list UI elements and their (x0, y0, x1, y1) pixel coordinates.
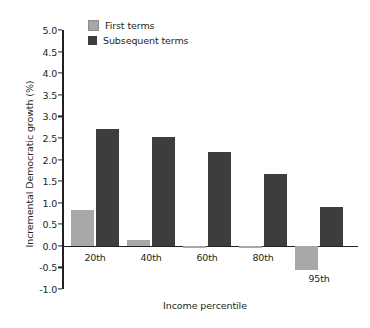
x-axis-tick-label: 80th (239, 252, 287, 263)
x-axis-tick-label: 95th (295, 273, 343, 284)
y-axis-tick-mark (58, 51, 62, 52)
bar-80th-subsequent-terms (264, 174, 287, 246)
bar-20th-first-terms (71, 210, 94, 245)
y-axis-tick-mark (58, 73, 62, 74)
bar-group: 40th (127, 30, 183, 289)
y-axis-tick-mark (58, 116, 62, 117)
bar-chart-figure: Incremental Democratic growth (%) First … (0, 0, 370, 328)
y-axis-tick-mark (58, 94, 62, 95)
y-axis-tick-mark (58, 224, 62, 225)
bar-60th-subsequent-terms (208, 152, 231, 246)
y-axis-tick-mark (58, 202, 62, 203)
y-axis-tick-mark (58, 245, 62, 246)
y-axis-tick-mark (58, 288, 62, 289)
bar-95th-subsequent-terms (320, 207, 343, 246)
bar-20th-subsequent-terms (96, 129, 119, 246)
bar-group: 20th (71, 30, 127, 289)
bar-95th-first-terms (295, 246, 318, 270)
y-axis-tick-mark (58, 29, 62, 30)
y-axis-tick-mark (58, 267, 62, 268)
x-axis-tick-label: 40th (127, 252, 175, 263)
bar-group: 60th (183, 30, 239, 289)
bar-40th-first-terms (127, 240, 150, 246)
bar-80th-first-terms (239, 246, 262, 248)
y-axis-tick-mark (58, 159, 62, 160)
bar-40th-subsequent-terms (152, 137, 175, 245)
x-axis-tick-label: 20th (71, 252, 119, 263)
y-axis-tick-mark (58, 137, 62, 138)
bar-60th-first-terms (183, 246, 206, 248)
plot-area: 5.04.54.03.53.02.52.01.51.00.50.0-0.5-1.… (62, 30, 358, 289)
x-axis-title: Income percentile (55, 300, 355, 311)
bar-group: 95th (295, 30, 351, 289)
y-axis-tick-mark (58, 180, 62, 181)
y-axis-title: Incremental Democratic growth (%) (20, 0, 40, 328)
x-axis-tick-label: 60th (183, 252, 231, 263)
y-axis-line (62, 30, 64, 289)
bar-group: 80th (239, 30, 295, 289)
